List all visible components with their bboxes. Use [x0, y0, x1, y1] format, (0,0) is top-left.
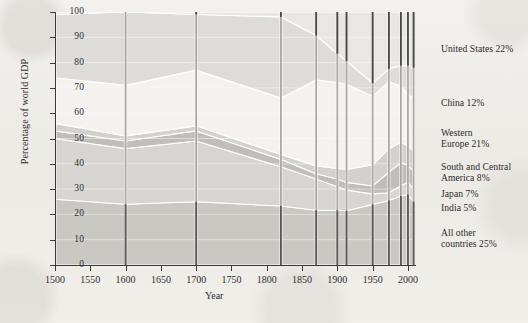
data-bar-segment: [315, 210, 317, 265]
x-tick-label: 1650: [141, 274, 181, 285]
y-tick: [50, 63, 55, 64]
x-tick-label: 1700: [176, 274, 216, 285]
x-tick-label: 1950: [353, 274, 393, 285]
y-axis-line: [55, 12, 56, 265]
data-bar-segment: [336, 210, 338, 265]
x-tick: [337, 266, 338, 271]
x-tick: [408, 266, 409, 271]
x-tick-label: 1550: [70, 274, 110, 285]
data-bar-segment: [315, 12, 317, 35]
legend-label: All other: [441, 228, 497, 239]
y-tick-label: 40: [74, 159, 84, 169]
x-tick: [126, 266, 127, 271]
y-tick: [50, 88, 55, 89]
stacked-area-chart: [55, 12, 415, 265]
plot-area: [55, 12, 415, 265]
y-tick-label: 0: [79, 260, 84, 270]
legend-label: South and Central: [441, 162, 511, 173]
y-tick-label: 30: [74, 184, 84, 194]
y-tick: [50, 189, 55, 190]
y-tick-label: 20: [74, 209, 84, 219]
x-tick: [161, 266, 162, 271]
legend-label: Western: [441, 128, 489, 139]
x-tick: [90, 266, 91, 271]
y-tick-label: 80: [74, 58, 84, 68]
x-tick: [302, 266, 303, 271]
x-tick: [267, 266, 268, 271]
data-bar-segment: [346, 12, 348, 61]
y-tick-label: 50: [74, 134, 84, 144]
x-axis-line: [55, 265, 416, 266]
x-tick-label: 1850: [282, 274, 322, 285]
data-bar-segment: [372, 12, 374, 83]
legend-item-united-states: United States 22%: [441, 44, 513, 55]
legend-label: Japan 7%: [441, 189, 478, 200]
data-bar-segment: [372, 204, 374, 265]
x-tick: [373, 266, 374, 271]
data-bar-segment: [400, 12, 402, 66]
legend-label-cont: countries 25%: [441, 239, 497, 250]
data-bar-segment: [125, 204, 127, 265]
data-bar-segment: [336, 12, 338, 54]
legend-label-cont: Europe 21%: [441, 139, 489, 150]
y-tick: [50, 240, 55, 241]
legend-label-cont: America 8%: [441, 173, 511, 184]
data-bar-segment: [413, 12, 415, 68]
legend-label: United States 22%: [441, 44, 513, 55]
y-tick-label: 10: [74, 235, 84, 245]
data-bar-segment: [195, 12, 197, 15]
data-bar-segment: [388, 12, 390, 69]
y-tick-label: 70: [74, 83, 84, 93]
x-tick-label: 1500: [35, 274, 75, 285]
y-axis-title: Percentage of world GDP: [19, 47, 30, 177]
y-tick-label: 60: [74, 108, 84, 118]
y-tick: [50, 214, 55, 215]
legend-item-all-other: All othercountries 25%: [441, 228, 497, 249]
x-tick-label: 1600: [106, 274, 146, 285]
x-tick: [55, 266, 56, 271]
data-bar-segment: [346, 211, 348, 265]
x-tick-label: 2000: [388, 274, 428, 285]
data-bar-segment: [388, 200, 390, 265]
x-tick: [196, 266, 197, 271]
data-bar-segment: [413, 202, 415, 265]
y-tick: [50, 37, 55, 38]
y-tick-label: 100: [69, 7, 84, 17]
data-bar-segment: [400, 196, 402, 265]
y-tick: [50, 113, 55, 114]
legend-label: India 5%: [441, 203, 476, 214]
x-tick-label: 1750: [211, 274, 251, 285]
legend-item-south-central-america: South and CentralAmerica 8%: [441, 162, 511, 183]
x-axis-title: Year: [205, 290, 223, 301]
data-bar-segment: [407, 194, 409, 265]
x-tick-label: 1900: [317, 274, 357, 285]
y-tick: [50, 139, 55, 140]
legend-label: China 12%: [441, 98, 484, 109]
legend-item-western-europe: WesternEurope 21%: [441, 128, 489, 149]
legend-item-japan: Japan 7%: [441, 189, 478, 200]
data-bar-segment: [407, 12, 409, 66]
legend-item-india: India 5%: [441, 203, 476, 214]
data-bar-segment: [195, 202, 197, 265]
x-tick-label: 1800: [247, 274, 287, 285]
data-bar-segment: [280, 206, 282, 265]
y-tick: [50, 12, 55, 13]
legend-item-china: China 12%: [441, 98, 484, 109]
data-bar-segment: [280, 12, 282, 17]
y-tick-label: 90: [74, 32, 84, 42]
x-tick: [231, 266, 232, 271]
y-tick: [50, 164, 55, 165]
